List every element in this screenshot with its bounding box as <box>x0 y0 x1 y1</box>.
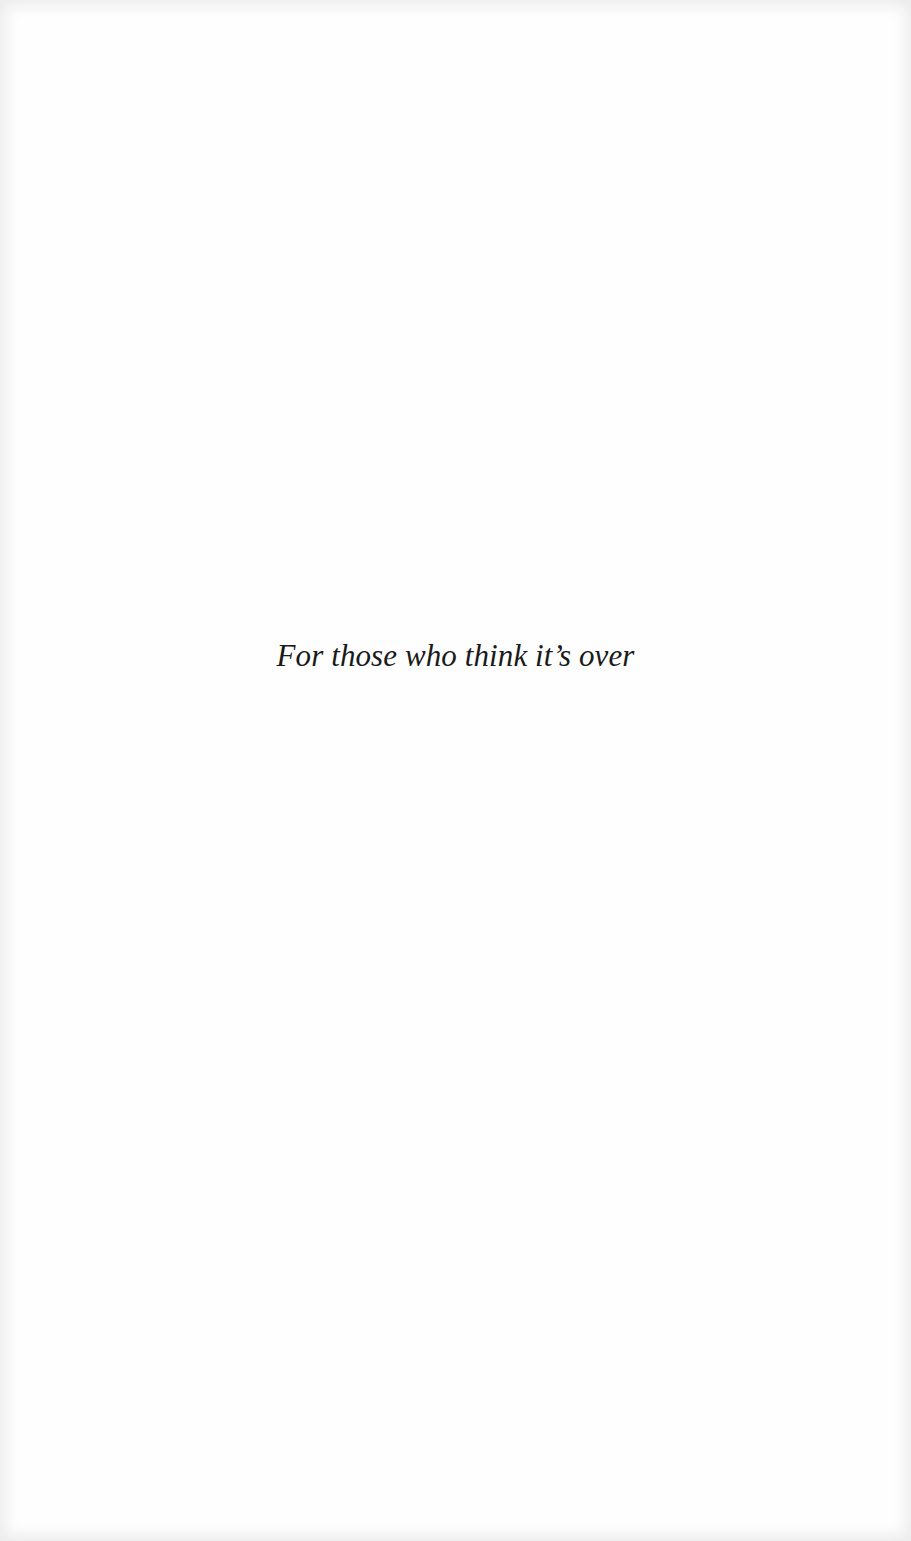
dedication-text: For those who think it’s over <box>0 636 911 676</box>
book-page: For those who think it’s over <box>0 0 911 1541</box>
